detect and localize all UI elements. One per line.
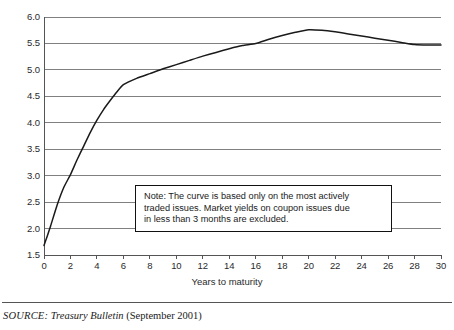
x-tick-label: 30 [429, 261, 453, 271]
x-tick-label: 6 [111, 261, 135, 271]
x-tick-label: 16 [244, 261, 268, 271]
x-tick-label: 0 [32, 261, 56, 271]
source-citation: SOURCE: Treasury Bulletin (September 200… [3, 310, 202, 321]
figure-footer: SOURCE: Treasury Bulletin (September 200… [0, 292, 454, 330]
x-tick-label: 22 [323, 261, 347, 271]
note-line-1: Note: The curve is based only on the mos… [144, 191, 384, 203]
note-line-2: traded issues. Market yields on coupon i… [144, 203, 384, 215]
x-tick-label: 4 [85, 261, 109, 271]
source-publication-title: Treasury Bulletin [51, 310, 124, 321]
x-tick-label: 28 [403, 261, 427, 271]
x-tick-label: 26 [376, 261, 400, 271]
footer-divider [2, 302, 452, 303]
x-axis-title: Years to maturity [0, 276, 454, 287]
note-line-3: in less than 3 months are excluded. [144, 214, 384, 226]
x-tick-label: 24 [350, 261, 374, 271]
x-tick-label: 8 [138, 261, 162, 271]
x-tick-label: 18 [270, 261, 294, 271]
x-tick-label: 14 [217, 261, 241, 271]
x-tick-label: 20 [297, 261, 321, 271]
source-date: (September 2001) [126, 310, 202, 321]
note-annotation-box: Note: The curve is based only on the mos… [135, 185, 392, 232]
x-tick-label: 2 [58, 261, 82, 271]
x-tick-label: 12 [191, 261, 215, 271]
x-axis-tick-labels: 024681012141618202224262830 [0, 0, 454, 292]
chart-plot-area: 1.52.02.53.03.54.04.55.05.56.0 024681012… [0, 0, 454, 292]
x-tick-label: 10 [164, 261, 188, 271]
yield-curve-figure: 1.52.02.53.03.54.04.55.05.56.0 024681012… [0, 0, 454, 330]
source-label: SOURCE: [3, 310, 48, 321]
